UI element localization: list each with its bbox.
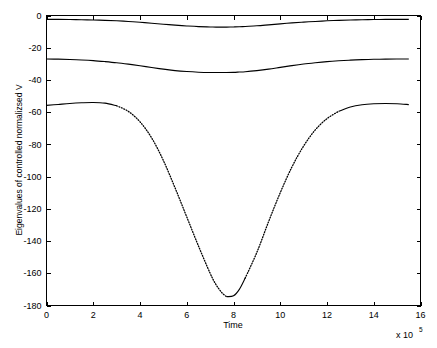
- x-tick-label: 12: [322, 310, 332, 320]
- figure-container: 0246810121416 0-20-40-60-80-100-120-140-…: [0, 0, 437, 348]
- y-tick-label: -40: [28, 75, 41, 85]
- x-tick-label: 10: [275, 310, 285, 320]
- eigenvalue-plot: 0246810121416 0-20-40-60-80-100-120-140-…: [0, 0, 437, 348]
- x-axis-multiplier-exponent: 5: [419, 326, 423, 333]
- x-tick-label: 4: [137, 310, 142, 320]
- x-axis-label: Time: [223, 320, 243, 330]
- figure-background: [0, 0, 437, 348]
- y-tick-label: -80: [28, 140, 41, 150]
- y-tick-label: -20: [28, 43, 41, 53]
- y-tick-label: -160: [23, 268, 41, 278]
- y-tick-label: -180: [23, 301, 41, 311]
- y-tick-label: -140: [23, 236, 41, 246]
- y-axis-label: Eigenvalues of controlled normalizsed V: [14, 84, 24, 236]
- x-tick-label: 16: [415, 310, 425, 320]
- x-tick-label: 14: [369, 310, 379, 320]
- x-axis-multiplier-base: x 10: [396, 330, 413, 340]
- y-tick-label: -60: [28, 107, 41, 117]
- y-tick-label: -120: [23, 204, 41, 214]
- x-tick-label: 0: [44, 310, 49, 320]
- x-tick-label: 8: [231, 310, 236, 320]
- x-tick-label: 2: [91, 310, 96, 320]
- y-tick-label: 0: [36, 11, 41, 21]
- y-tick-label: -100: [23, 172, 41, 182]
- x-tick-label: 6: [184, 310, 189, 320]
